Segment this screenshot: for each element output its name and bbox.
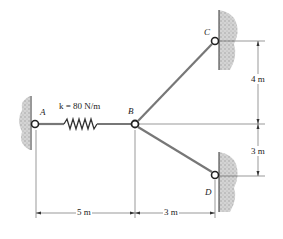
wall-c — [219, 10, 238, 70]
label-a: A — [40, 107, 46, 117]
diagram-drawing — [0, 0, 283, 239]
dim-ab-label: 5 m — [76, 207, 92, 217]
dim-vertical-d-label: 3 m — [250, 146, 266, 156]
label-d: D — [205, 187, 212, 197]
wall-d — [219, 152, 238, 212]
dim-bd-label: 3 m — [163, 207, 179, 217]
label-c: C — [204, 27, 210, 37]
diagram-canvas: A B C D k = 80 N/m 5 m 3 m 4 m 3 m — [0, 0, 283, 239]
cable-bc — [138, 44, 212, 121]
dim-vertical-c-label: 4 m — [250, 74, 266, 84]
pin-a-icon — [32, 121, 39, 128]
label-b: B — [128, 106, 134, 116]
spring-constant-label: k = 80 N/m — [59, 101, 100, 111]
pin-d-icon — [212, 172, 219, 179]
pin-b-icon — [132, 121, 139, 128]
pin-c-icon — [212, 38, 219, 45]
spring-icon — [64, 119, 97, 129]
wall-a — [19, 96, 31, 150]
cable-bd — [138, 127, 212, 172]
